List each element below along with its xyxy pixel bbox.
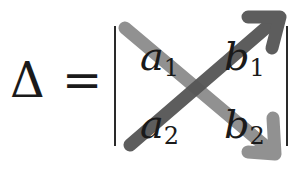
matrix-cell-a1: a1 (140, 36, 179, 80)
matrix-cell-b2: b2 (224, 104, 265, 148)
matrix-cell-a2: a2 (140, 104, 179, 148)
matrix-cell-b1: b1 (224, 36, 265, 80)
